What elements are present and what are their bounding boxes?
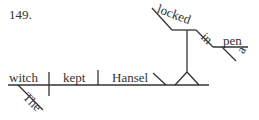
pedestal-right [187, 72, 199, 85]
complement-slant [153, 73, 166, 85]
word-verb: kept [63, 71, 85, 84]
pedestal-left [175, 72, 187, 85]
word-object: Hansel [112, 71, 148, 84]
word-subject: witch [9, 71, 38, 84]
